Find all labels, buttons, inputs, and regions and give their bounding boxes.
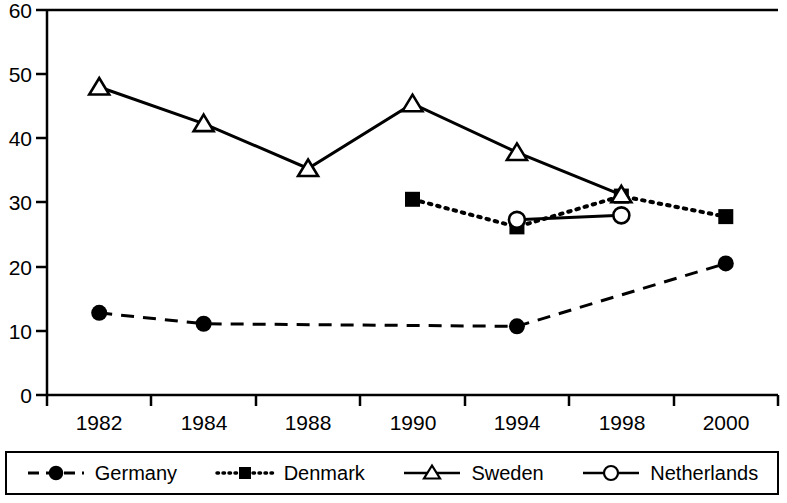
data-point-denmark — [405, 192, 420, 207]
x-tick-label-1988: 1988 — [285, 411, 332, 434]
germany-line-marker-icon — [26, 462, 86, 484]
x-tick-label-1982: 1982 — [76, 411, 123, 434]
x-tick-label-1984: 1984 — [181, 411, 228, 434]
data-point-germany — [718, 255, 734, 271]
y-tick-marks — [36, 10, 47, 395]
denmark-line-marker-icon — [215, 462, 275, 484]
data-point-germany — [91, 305, 107, 321]
data-point-netherlands — [613, 207, 629, 223]
x-tick-label-1994: 1994 — [494, 411, 541, 434]
x-tick-label-2000: 2000 — [703, 411, 750, 434]
series-denmark — [405, 189, 733, 235]
y-tick-label-20: 20 — [9, 256, 32, 279]
data-point-netherlands — [509, 212, 525, 228]
data-point-sweden — [194, 115, 214, 132]
series-line-denmark — [413, 196, 726, 227]
y-tick-label-30: 30 — [9, 191, 32, 214]
series-sweden — [89, 78, 631, 202]
data-point-sweden — [507, 143, 527, 160]
data-point-germany — [196, 316, 212, 332]
y-tick-label-10: 10 — [9, 320, 32, 343]
data-point-denmark — [718, 209, 733, 224]
y-tick-label-60: 60 — [9, 0, 32, 22]
series-line-netherlands — [517, 215, 621, 219]
x-tick-label-1990: 1990 — [390, 411, 437, 434]
legend-item-sweden[interactable]: Sweden — [402, 462, 543, 484]
chart-legend: Germany Denmark Sweden Netherlands — [5, 451, 779, 495]
line-chart: 60 50 40 30 20 10 0 1982 1984 1988 199 — [0, 0, 787, 445]
legend-label-denmark: Denmark — [284, 463, 365, 483]
sweden-line-marker-icon — [402, 462, 462, 484]
data-point-sweden — [403, 95, 423, 112]
legend-label-netherlands: Netherlands — [650, 463, 758, 483]
series-layer — [89, 78, 734, 334]
netherlands-line-marker-icon — [581, 462, 641, 484]
series-germany — [91, 255, 734, 334]
legend-label-sweden: Sweden — [471, 463, 543, 483]
series-line-sweden — [99, 87, 621, 195]
legend-label-germany: Germany — [95, 463, 177, 483]
chart-svg: 60 50 40 30 20 10 0 1982 1984 1988 199 — [0, 0, 787, 445]
x-tick-label-1998: 1998 — [599, 411, 646, 434]
x-tick-marks — [47, 395, 778, 406]
data-point-sweden — [298, 159, 318, 176]
legend-item-denmark[interactable]: Denmark — [215, 462, 365, 484]
y-tick-label-50: 50 — [9, 63, 32, 86]
chart-page: 60 50 40 30 20 10 0 1982 1984 1988 199 — [0, 0, 787, 503]
y-tick-label-40: 40 — [9, 127, 32, 150]
data-point-germany — [509, 318, 525, 334]
y-tick-label-0: 0 — [20, 384, 32, 407]
series-line-germany — [99, 263, 726, 326]
data-point-sweden — [89, 78, 109, 95]
legend-item-germany[interactable]: Germany — [26, 462, 177, 484]
legend-item-netherlands[interactable]: Netherlands — [581, 462, 758, 484]
